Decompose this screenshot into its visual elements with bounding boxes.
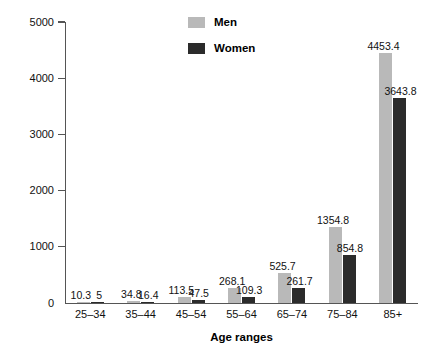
bar-value-label: 10.3 [71,290,91,301]
y-axis-tick-label: 0 [10,298,54,309]
y-axis-tick-label: 5000 [10,17,54,28]
y-axis-tick [58,134,65,135]
x-axis-title: Age ranges [65,331,418,343]
y-axis-tick [58,190,65,191]
bar-value-label: 525.7 [269,261,295,272]
plot-area: 10.3534.816.4113.547.5268.1109.3525.7261… [65,22,418,303]
x-axis-tick-label: 85+ [363,308,423,320]
legend-label-men: Men [214,14,237,31]
bar-chart: Deaths per 100,000 population 0100020003… [0,0,429,351]
bar-value-label: 109.3 [236,285,262,296]
bar-value-label: 47.5 [188,288,208,299]
bar-women[interactable] [91,302,104,303]
bar-men[interactable] [329,227,342,303]
bar-group: 113.547.5 [178,22,205,303]
bar-women[interactable] [343,255,356,303]
y-axis-tick [58,246,65,247]
y-axis-tick [58,21,65,22]
y-axis-tick-label: 3000 [10,129,54,140]
bar-women[interactable] [242,297,255,303]
legend-label-women: Women [214,40,255,57]
bar-men[interactable] [77,302,90,303]
bar-group: 34.816.4 [127,22,154,303]
bar-value-label: 1354.8 [317,215,349,226]
bar-group: 268.1109.3 [228,22,255,303]
bar-women[interactable] [141,302,154,303]
x-axis-line [65,303,418,304]
legend-swatch-men-icon [188,17,205,28]
bar-group: 525.7261.7 [278,22,305,303]
bar-men[interactable] [127,301,140,303]
y-axis-tick [58,78,65,79]
bar-value-label: 854.8 [337,243,363,254]
bar-value-label: 5 [96,290,102,301]
bar-value-label: 4453.4 [367,41,399,52]
bar-group: 1354.8854.8 [329,22,356,303]
bar-women[interactable] [393,98,406,303]
legend-swatch-women-icon [188,43,205,54]
bar-women[interactable] [192,300,205,303]
bar-women[interactable] [292,288,305,303]
y-axis-tick-label: 2000 [10,185,54,196]
y-axis-tick-label: 4000 [10,73,54,84]
bar-group: 4453.43643.8 [379,22,406,303]
bar-value-label: 3643.8 [384,86,416,97]
bar-value-label: 261.7 [286,276,312,287]
y-axis-tick-label: 1000 [10,241,54,252]
bar-value-label: 16.4 [138,290,158,301]
bar-group: 10.35 [77,22,104,303]
